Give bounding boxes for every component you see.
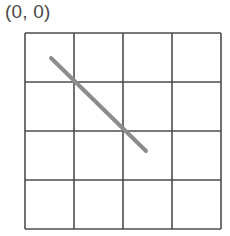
diagonal-segment — [51, 58, 146, 151]
grid-diagram — [0, 0, 230, 236]
